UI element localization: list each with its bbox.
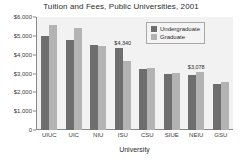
legend-label: Undergraduate bbox=[160, 26, 200, 32]
legend-swatch-icon bbox=[151, 34, 157, 40]
x-axis: UIUCUICNIUISUCSUSIUENEIUGSU bbox=[37, 132, 233, 144]
y-axis-tick-label: $5,000 bbox=[14, 33, 32, 39]
bar-chart: Tuition and Fees, Public Universities, 2… bbox=[0, 0, 242, 166]
x-axis-tick-label-csu: CSU bbox=[136, 132, 158, 144]
bar-value-label: $3,078 bbox=[188, 64, 205, 70]
bar-undergraduate-uic bbox=[66, 40, 74, 130]
y-axis-tick-label: $2,000 bbox=[14, 89, 32, 95]
bar-group bbox=[90, 17, 106, 130]
legend-item-graduate: Graduate bbox=[151, 34, 200, 40]
y-axis: $6,000$5,000$4,000$3,000$2,000$1,0000 bbox=[0, 17, 36, 131]
bar-undergraduate-uiuc bbox=[41, 36, 49, 130]
x-axis-tick-label-uiuc: UIUC bbox=[38, 132, 60, 144]
y-axis-tick-label: $3,000 bbox=[14, 71, 32, 77]
bar-undergraduate-neiu bbox=[188, 75, 196, 130]
bar-graduate-uic bbox=[74, 28, 82, 130]
y-axis-tick-label: $6,000 bbox=[14, 14, 32, 20]
bar-graduate-niu bbox=[98, 46, 106, 130]
legend-swatch-icon bbox=[151, 26, 157, 32]
legend-label: Graduate bbox=[160, 34, 185, 40]
bar-undergraduate-niu bbox=[90, 45, 98, 130]
bar-undergraduate-csu bbox=[139, 69, 147, 130]
x-axis-tick-label-isu: ISU bbox=[112, 132, 134, 144]
x-axis-tick-label-niu: NIU bbox=[87, 132, 109, 144]
bar-group bbox=[41, 17, 57, 130]
bar-undergraduate-isu bbox=[115, 48, 123, 130]
chart-title: Tuition and Fees, Public Universities, 2… bbox=[0, 2, 242, 11]
x-axis-tick-label-neiu: NEIU bbox=[185, 132, 207, 144]
y-axis-tick-label: $4,000 bbox=[14, 52, 32, 58]
bar-graduate-gsu bbox=[221, 82, 229, 130]
bar-graduate-siue bbox=[172, 73, 180, 130]
y-axis-tick-label: $1,000 bbox=[14, 108, 32, 114]
chart-legend: UndergraduateGraduate bbox=[146, 22, 205, 44]
x-axis-title: University bbox=[36, 146, 233, 153]
x-axis-tick-label-gsu: GSU bbox=[210, 132, 232, 144]
bar-group: $4,340 bbox=[115, 17, 131, 130]
bar-group bbox=[66, 17, 82, 130]
bar-value-label: $4,340 bbox=[114, 40, 131, 46]
bar-undergraduate-siue bbox=[164, 74, 172, 130]
bar-undergraduate-gsu bbox=[213, 84, 221, 130]
bar-graduate-neiu bbox=[196, 72, 204, 130]
bar-graduate-uiuc bbox=[49, 25, 57, 130]
legend-item-undergraduate: Undergraduate bbox=[151, 26, 200, 32]
x-axis-tick-label-uic: UIC bbox=[63, 132, 85, 144]
bar-graduate-isu bbox=[123, 61, 131, 130]
bar-group bbox=[213, 17, 229, 130]
y-axis-tick-label: 0 bbox=[29, 127, 32, 133]
x-axis-tick-label-siue: SIUE bbox=[161, 132, 183, 144]
bar-graduate-csu bbox=[147, 68, 155, 130]
